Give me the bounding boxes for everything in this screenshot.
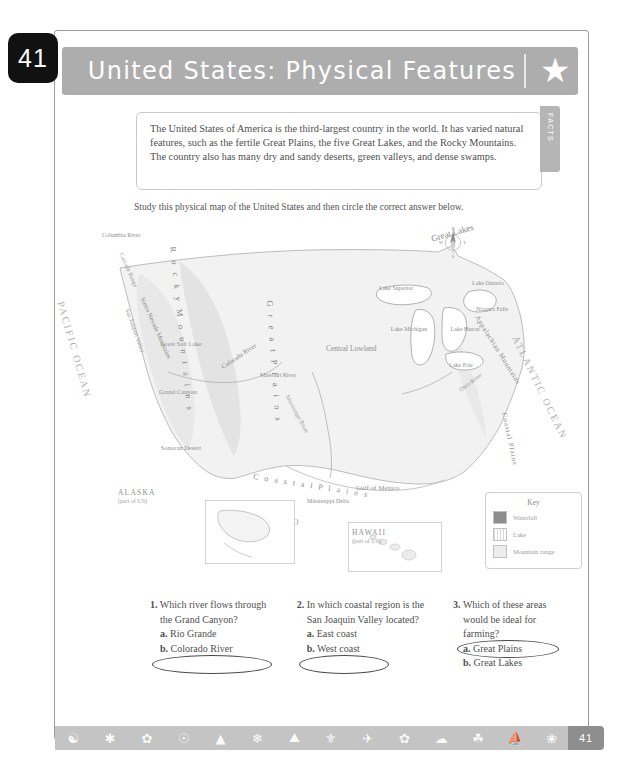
tree-icon: ▲ [202,731,239,746]
question-3-option-b[interactable]: b. Great Lakes [453,656,570,671]
q1-b-text: Colorado River [171,643,233,654]
question-2-number: 2. [297,599,305,610]
questions-area: 1. Which river flows through the Grand C… [150,598,570,671]
map-key: Key Waterfall Lake Mountain range [485,492,582,569]
key-label-lake: Lake [513,531,526,538]
balloon-icon: ☯ [55,731,92,746]
snowflake-icon: ❄ [239,731,276,746]
mountain-range-swatch-icon [493,545,507,558]
title-divider [524,54,526,88]
question-1-stem: 1. Which river flows through the Grand C… [150,598,279,627]
q3-a-letter: a. [463,643,471,654]
q3-a-text: Great Plains [473,643,522,654]
svg-text:S: S [452,254,455,258]
label-lake-erie: Lake Erie [448,362,474,368]
title-bar: United States: Physical Features ★ [62,47,578,95]
question-2: 2. In which coastal region is the San Jo… [297,598,435,671]
bird-icon: ✈ [349,731,386,746]
instruction-text: Study this physical map of the United St… [134,201,463,212]
q1-b-letter: b. [160,643,168,654]
question-2-option-a[interactable]: a. East coast [297,627,435,642]
question-2-text: In which coastal region is the San Joaqu… [307,599,424,625]
question-3-stem: 3. Which of these areas would be ideal f… [453,598,570,642]
label-sonoran-desert: Sonoran Desert [156,444,206,451]
q1-a-letter: a. [160,628,168,639]
question-1-number: 1. [150,599,158,610]
mountain-icon: ⛰ [276,730,313,746]
question-1-option-b[interactable]: b. Colorado River [150,642,279,657]
hawaii-label: HAWAII [352,528,386,537]
globe-icon: ⚜ [312,731,349,746]
worksheet-page: 41 United States: Physical Features ★ FA… [0,0,622,768]
label-lake-huron: Lake Huron [450,326,480,332]
facts-tab-label: FACTS [547,113,554,142]
label-great-salt-lake: Great Salt Lake [156,340,206,347]
flower-icon: ✿ [129,731,166,746]
label-mississippi-delta: Mississippi Delta [306,498,350,504]
q1-a-text: Rio Grande [170,628,216,639]
q2-a-text: East coast [317,628,357,639]
footer-decorative-strip: ☯ ✱ ✿ ☉ ▲ ❄ ⛰ ⚜ ✈ ✿ ☁ ☘ ⛵ ❀ [55,726,570,750]
question-3-option-a[interactable]: a. Great Plains [453,642,570,657]
q2-b-text: West coast [317,643,360,654]
tent-icon: ⛵ [496,731,533,746]
question-1: 1. Which river flows through the Grand C… [150,598,279,671]
facts-tab: FACTS [540,106,560,172]
label-lake-michigan: Lake Michigan [390,326,428,332]
key-label-waterfall: Waterfall [513,514,537,521]
label-columbia-river: Columbia River [102,232,141,238]
question-3: 3. Which of these areas would be ideal f… [453,598,570,671]
page-title: United States: Physical Features [62,57,518,85]
q2-a-letter: a. [307,628,315,639]
star-badge: ★ [532,54,578,88]
feather-icon: ❀ [533,731,570,746]
label-gulf-of-mexico: Gulf of Mexico [356,484,400,492]
q3-b-letter: b. [463,657,471,668]
alaska-sublabel: (part of US) [118,498,147,504]
lake-swatch-icon [493,528,507,541]
label-missouri-river: Missouri River [260,372,296,378]
page-number-text: 41 [8,33,58,83]
wheat-icon: ☘ [460,731,497,746]
q3-b-text: Great Lakes [474,657,523,668]
question-3-number: 3. [453,599,461,610]
label-lake-ontario: Lake Ontario [472,280,504,286]
windmill-icon: ✱ [92,731,129,746]
question-1-text: Which river flows through the Grand Cany… [160,599,266,625]
label-lake-superior: Lake Superior [378,285,414,291]
key-item-mountain-range: Mountain range [493,545,581,558]
key-label-mountain-range: Mountain range [513,548,554,555]
question-2-stem: 2. In which coastal region is the San Jo… [297,598,435,627]
facts-text: The United States of America is the thir… [137,113,541,165]
compass-icon: ☉ [165,731,202,746]
key-item-lake: Lake [493,528,581,541]
leaf-icon: ✿ [386,731,423,746]
label-niagara-falls: Niagara Falls [476,306,508,312]
question-3-text: Which of these areas would be ideal for … [463,599,547,639]
waterfall-swatch-icon [493,511,507,524]
alaska-label: ALASKA [118,488,156,497]
key-item-waterfall: Waterfall [493,511,581,524]
hawaii-sublabel: (part of US) [352,538,381,544]
cloud-icon: ☁ [423,731,460,746]
q2-b-letter: b. [307,643,315,654]
facts-box: The United States of America is the thir… [136,112,542,190]
footer-page-number: 41 [568,726,604,750]
alaska-outline-graphic [206,501,294,563]
physical-map: N S E W PACIFIC OCEAN ATLANTIC OCEAN R o… [60,222,580,582]
star-icon: ★ [540,54,570,88]
page-number-tab: 41 [8,33,58,83]
label-grand-canyon: Grand Canyon [156,388,200,395]
question-2-option-b[interactable]: b. West coast [297,642,435,657]
label-central-lowland: Central Lowland [326,344,377,353]
alaska-inset [205,500,295,564]
key-title: Key [486,493,581,507]
question-1-option-a[interactable]: a. Rio Grande [150,627,279,642]
svg-text:E: E [464,240,467,245]
